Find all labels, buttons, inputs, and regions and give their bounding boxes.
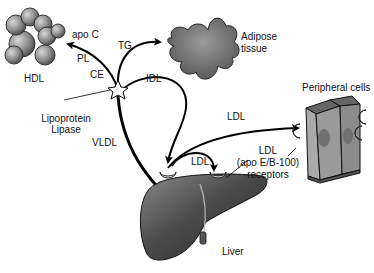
label-pl: PL <box>77 53 89 64</box>
label-liver: Liver <box>222 246 244 257</box>
label-ce: CE <box>90 69 104 80</box>
label-receptor-1: LDL <box>230 145 306 156</box>
liver-icon <box>140 174 267 260</box>
label-apo-c: apo C <box>72 29 99 40</box>
label-peripheral-cells: Peripheral cells <box>302 82 370 93</box>
adipose-tissue-icon <box>168 18 239 79</box>
label-adipose-2: tissue <box>241 43 267 54</box>
label-lipase-2: Lipase <box>36 124 96 135</box>
label-vldl: VLDL <box>92 137 117 148</box>
label-tg: TG <box>118 40 132 51</box>
label-idl: IDL <box>146 73 162 84</box>
label-lipase-1: Lipoprotein <box>36 113 96 124</box>
label-ldl-to-cells: LDL <box>227 111 245 122</box>
label-adipose-1: Adipose <box>241 31 277 42</box>
hdl-particle-icon <box>5 8 65 65</box>
label-ldl-to-liver: LDL <box>191 156 209 167</box>
label-receptor-2: (apo E/B-100) <box>230 157 306 168</box>
label-receptor-3: receptors <box>230 169 306 180</box>
lipase-leader-line <box>64 90 110 100</box>
label-hdl: HDL <box>24 73 44 84</box>
peripheral-cells-icon <box>306 96 360 183</box>
lipoprotein-diagram <box>0 0 374 273</box>
